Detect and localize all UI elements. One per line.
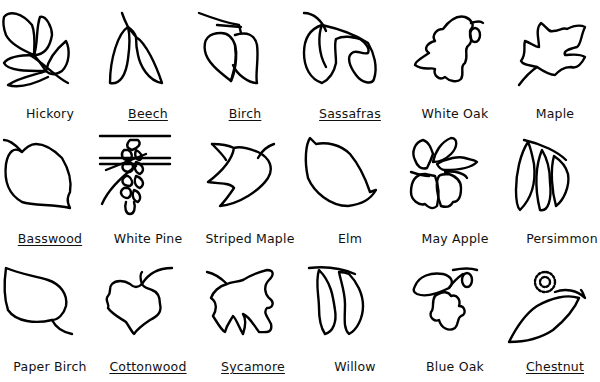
elm-leaf-icon [300, 130, 400, 230]
leaf-cell-elm: Elm [300, 130, 400, 257]
leaf-cell-white-oak: White Oak [405, 5, 505, 132]
maple-leaf-icon [505, 5, 600, 105]
leaf-chart: Hickory Beech Birch Sassafras [0, 0, 600, 382]
leaf-cell-white-pine: White Pine [98, 130, 198, 257]
may-apple-leaf-icon [405, 130, 505, 230]
leaf-cell-sycamore: Sycamore [203, 258, 303, 382]
leaf-cell-birch: Birch [195, 5, 295, 132]
leaf-label: Chestnut [495, 359, 600, 374]
persimmon-leaf-icon [512, 130, 600, 230]
leaf-cell-paper-birch: Paper Birch [0, 258, 100, 382]
basswood-leaf-icon [0, 130, 100, 230]
birch-leaf-icon [195, 5, 295, 105]
leaf-cell-cottonwood: Cottonwood [98, 258, 198, 382]
leaf-label: Elm [290, 231, 410, 246]
white-pine-cone-icon [98, 130, 198, 230]
leaf-cell-hickory: Hickory [0, 5, 100, 132]
leaf-cell-may-apple: May Apple [405, 130, 505, 257]
leaf-cell-beech: Beech [98, 5, 198, 132]
leaf-cell-sassafras: Sassafras [300, 5, 400, 132]
leaf-cell-willow: Willow [305, 258, 405, 382]
leaf-label: Maple [495, 106, 600, 121]
white-oak-leaf-icon [405, 5, 505, 105]
cottonwood-leaf-icon [98, 258, 198, 358]
leaf-cell-blue-oak: Blue Oak [405, 258, 505, 382]
leaf-label: Sassafras [290, 106, 410, 121]
striped-maple-leaf-icon [200, 130, 300, 230]
leaf-label: Persimmon [502, 231, 600, 246]
willow-leaf-icon [305, 258, 405, 358]
leaf-cell-basswood: Basswood [0, 130, 100, 257]
leaf-label: Cottonwood [88, 359, 208, 374]
sassafras-leaf-icon [300, 5, 400, 105]
hickory-leaf-icon [0, 5, 100, 105]
blue-oak-leaf-icon [405, 258, 505, 358]
sycamore-leaf-icon [203, 258, 303, 358]
leaf-label: Birch [185, 106, 305, 121]
leaf-cell-maple: Maple [505, 5, 600, 132]
leaf-label: May Apple [395, 231, 515, 246]
paper-birch-leaf-icon [0, 258, 100, 358]
leaf-cell-persimmon: Persimmon [512, 130, 600, 257]
beech-leaf-icon [98, 5, 198, 105]
leaf-cell-striped-maple: Striped Maple [200, 130, 300, 257]
chestnut-leaf-icon [505, 258, 600, 358]
leaf-cell-chestnut: Chestnut [505, 258, 600, 382]
